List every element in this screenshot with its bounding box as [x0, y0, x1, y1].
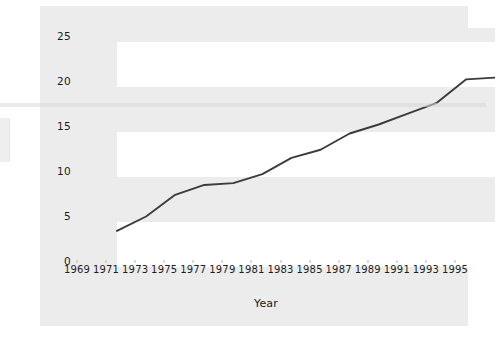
x-tick-label: 1969	[64, 264, 90, 275]
x-tick-label: 1987	[326, 264, 352, 275]
x-tick-label: 1981	[238, 264, 264, 275]
y-axis-tick-labels: 0510152025	[40, 22, 71, 261]
x-tick-label: 1991	[384, 264, 410, 275]
series-line	[117, 78, 495, 231]
x-tick-mark	[425, 260, 426, 263]
y-tick-label: 15	[57, 120, 71, 132]
x-tick-mark	[280, 260, 281, 263]
x-tick-mark	[309, 260, 310, 263]
x-tick-label: 1995	[442, 264, 468, 275]
data-line-series	[117, 28, 495, 267]
x-tick-mark	[164, 260, 165, 263]
x-tick-mark	[193, 260, 194, 263]
x-tick-label: 1989	[355, 264, 381, 275]
scan-streak-artifact	[0, 103, 486, 107]
x-tick-label: 1977	[180, 264, 206, 275]
y-tick-label: 20	[57, 75, 71, 87]
x-tick-label: 1979	[209, 264, 235, 275]
x-tick-mark	[77, 260, 78, 263]
x-axis-tick-labels: 1969197119731975197719791981198319851987…	[77, 264, 455, 280]
x-tick-mark	[135, 260, 136, 263]
x-tick-mark	[396, 260, 397, 263]
x-tick-mark	[222, 260, 223, 263]
scan-edge-artifact	[0, 118, 10, 162]
x-tick-mark	[106, 260, 107, 263]
x-tick-mark	[455, 260, 456, 263]
plot-area	[117, 28, 495, 267]
x-tick-label: 1975	[151, 264, 177, 275]
x-tick-label: 1993	[413, 264, 439, 275]
x-tick-label: 1971	[93, 264, 119, 275]
x-tick-label: 1983	[267, 264, 293, 275]
x-tick-label: 1985	[296, 264, 322, 275]
x-tick-mark	[251, 260, 252, 263]
x-tick-label: 1973	[122, 264, 148, 275]
x-tick-mark	[367, 260, 368, 263]
y-tick-label: 10	[57, 165, 71, 177]
x-axis-title: Year	[77, 297, 455, 310]
x-tick-mark	[338, 260, 339, 263]
y-tick-label: 25	[57, 30, 71, 42]
y-tick-label: 5	[64, 210, 71, 222]
